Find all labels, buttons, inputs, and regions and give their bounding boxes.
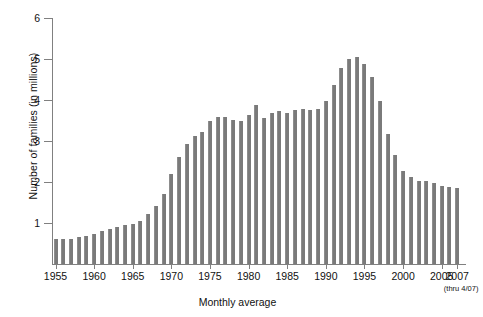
bar	[401, 171, 405, 264]
bar	[247, 115, 251, 264]
x-axis-tick-label: 1975	[190, 271, 230, 282]
y-axis-tick-label: 3	[14, 136, 40, 146]
bar	[162, 194, 166, 264]
bar	[386, 134, 390, 264]
bar	[455, 188, 459, 264]
y-axis-tick	[44, 141, 52, 142]
bar	[270, 113, 274, 264]
x-axis-tick-label: 1985	[267, 271, 307, 282]
y-axis-tick	[44, 182, 52, 183]
bar	[193, 136, 197, 264]
bar	[301, 109, 305, 264]
bar	[262, 118, 266, 264]
bar	[393, 155, 397, 264]
bar	[154, 206, 158, 264]
y-axis-tick-label: 5	[14, 54, 40, 64]
bar	[131, 224, 135, 264]
bar	[440, 186, 444, 264]
bar	[216, 117, 220, 264]
bar	[177, 157, 181, 264]
x-axis-tick-label: 1965	[113, 271, 153, 282]
x-axis-tick-label: 1990	[306, 271, 346, 282]
bar	[432, 183, 436, 264]
y-axis-tick	[44, 223, 52, 224]
bar	[108, 229, 112, 264]
x-axis-tick	[171, 265, 172, 269]
x-axis-title: Monthly average	[0, 296, 475, 308]
bar	[277, 111, 281, 264]
bar	[409, 177, 413, 264]
x-axis-note: (thru 4/07)	[431, 285, 483, 293]
x-axis-tick-label: 2000	[383, 271, 423, 282]
x-axis-tick-label: 1995	[344, 271, 384, 282]
x-axis-tick	[403, 265, 404, 269]
bar	[100, 231, 104, 264]
bar	[316, 109, 320, 264]
bar	[332, 85, 336, 264]
bar	[84, 236, 88, 264]
y-axis-tick-label: 6	[14, 13, 40, 23]
bars-layer	[52, 18, 466, 264]
bar	[54, 239, 58, 264]
bar	[378, 101, 382, 264]
bar	[362, 64, 366, 264]
bar	[293, 110, 297, 264]
x-axis-tick-label: 1970	[151, 271, 191, 282]
x-axis-tick-label: 1960	[74, 271, 114, 282]
bar	[146, 214, 150, 264]
bar	[185, 144, 189, 264]
bar	[339, 68, 343, 264]
y-axis-tick	[44, 18, 52, 19]
x-axis-tick	[364, 265, 365, 269]
bar	[92, 234, 96, 264]
x-axis-tick	[457, 265, 458, 269]
y-axis-tick-label: 2	[14, 177, 40, 187]
y-axis-tick	[44, 100, 52, 101]
bar	[417, 181, 421, 264]
bar	[239, 121, 243, 265]
bar	[254, 105, 258, 264]
x-axis-tick	[326, 265, 327, 269]
bar	[115, 227, 119, 264]
y-axis-tick-label: 1	[14, 218, 40, 228]
bar	[308, 110, 312, 264]
bar	[355, 57, 359, 264]
bar	[69, 239, 73, 264]
bar	[77, 237, 81, 264]
bar	[347, 59, 351, 264]
bar	[223, 117, 227, 264]
x-axis-tick	[56, 265, 57, 269]
x-axis-tick	[94, 265, 95, 269]
bar	[61, 239, 65, 264]
x-axis-tick	[442, 265, 443, 269]
y-axis-tick-label: 4	[14, 95, 40, 105]
y-axis-tick	[44, 59, 52, 60]
bar	[324, 101, 328, 264]
bar	[208, 121, 212, 265]
x-axis-tick-label: 2007	[437, 271, 477, 282]
x-axis-tick-label: 1980	[229, 271, 269, 282]
bar	[231, 120, 235, 264]
x-axis-tick	[133, 265, 134, 269]
bar	[447, 187, 451, 264]
bar	[123, 225, 127, 264]
bar	[169, 174, 173, 264]
x-axis-tick-label: 1955	[36, 271, 76, 282]
bar	[285, 113, 289, 264]
y-axis-title: Number of families (in millions)	[27, 1, 39, 251]
bar	[424, 181, 428, 264]
x-axis-tick	[249, 265, 250, 269]
x-axis-tick	[210, 265, 211, 269]
bar	[200, 132, 204, 264]
x-axis-tick	[287, 265, 288, 269]
bar	[138, 221, 142, 264]
bar	[370, 77, 374, 264]
